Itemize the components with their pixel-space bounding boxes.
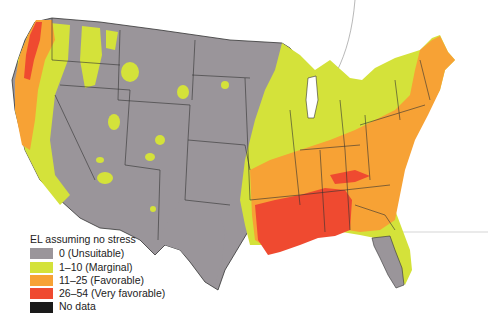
swatch-very-favorable — [30, 288, 53, 299]
legend-label: 26–54 (Very favorable) — [59, 287, 165, 300]
swatch-unsuitable — [30, 248, 53, 259]
legend-label: No data — [59, 300, 96, 313]
legend-item-marginal: 1–10 (Marginal) — [30, 261, 165, 274]
swatch-marginal — [30, 262, 53, 273]
swatch-favorable — [30, 275, 53, 286]
legend-label: 1–10 (Marginal) — [59, 261, 133, 274]
legend-label: 0 (Unsuitable) — [59, 247, 124, 260]
legend-label: 11–25 (Favorable) — [59, 274, 144, 287]
legend-item-favorable: 11–25 (Favorable) — [30, 274, 165, 287]
legend-title: EL assuming no stress — [30, 233, 165, 246]
swatch-no-data — [30, 302, 53, 313]
legend-item-unsuitable: 0 (Unsuitable) — [30, 247, 165, 260]
legend-item-no-data: No data — [30, 300, 165, 313]
legend-item-very-favorable: 26–54 (Very favorable) — [30, 287, 165, 300]
legend: EL assuming no stress 0 (Unsuitable) 1–1… — [30, 233, 165, 314]
